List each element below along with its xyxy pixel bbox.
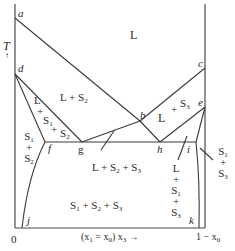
region-l-s1-s2-s2: S2 bbox=[60, 128, 70, 139]
point-f: f bbox=[48, 143, 51, 154]
phase-diagram-lines bbox=[0, 0, 235, 251]
line-b-g bbox=[82, 121, 140, 142]
point-e: e bbox=[198, 97, 203, 108]
leader-l-s1-s3 bbox=[178, 136, 187, 160]
x-axis-end: 1 − x0 bbox=[196, 232, 220, 242]
region-s1-s3-s3: S3 bbox=[216, 168, 230, 179]
point-h: h bbox=[157, 144, 163, 155]
point-g: g bbox=[78, 144, 84, 155]
point-j: j bbox=[27, 215, 30, 226]
x-axis-origin: 0 bbox=[11, 234, 17, 245]
region-l-s1-s3-s3: S3 bbox=[169, 207, 183, 218]
region-l-s3-s3: S3 bbox=[180, 98, 190, 109]
line-b-h bbox=[140, 121, 160, 142]
point-i: i bbox=[187, 144, 190, 155]
line-e-i bbox=[196, 107, 205, 142]
region-s1-s2: S1 + S2 bbox=[22, 131, 36, 164]
point-d: d bbox=[18, 63, 24, 74]
region-liquid: L bbox=[130, 29, 137, 41]
region-s1-s2-s2: S2 bbox=[22, 153, 36, 164]
solvus-i-k bbox=[196, 142, 199, 228]
point-c: c bbox=[198, 58, 203, 69]
region-l-s2-s3: L + S2 + S3 bbox=[92, 162, 141, 173]
region-l-s3-plus: + bbox=[171, 104, 177, 115]
region-s1-s2-s3: S1 + S2 + S3 bbox=[70, 200, 122, 211]
point-k: k bbox=[189, 215, 194, 226]
line-e-h bbox=[160, 107, 205, 142]
region-l-s2: L + S2 bbox=[60, 92, 88, 103]
region-s1-s3: S1 + S3 bbox=[216, 146, 230, 179]
leader-s1-s3 bbox=[200, 148, 213, 160]
region-l-s1-s3: L + S1 + S3 bbox=[169, 163, 183, 218]
x-axis-label: (x1 = x0) x3 → bbox=[81, 232, 139, 242]
region-l-s1-s2-plus2: + bbox=[51, 124, 57, 135]
region-l-s3-l: L bbox=[158, 112, 165, 124]
y-axis-arrow: ↑ bbox=[5, 52, 9, 60]
point-a: a bbox=[18, 8, 24, 19]
point-b: b bbox=[140, 110, 146, 121]
phase-diagram: T ↑ 0 (x1 = x0) x3 → 1 − x0 a b c d e f … bbox=[0, 0, 235, 251]
